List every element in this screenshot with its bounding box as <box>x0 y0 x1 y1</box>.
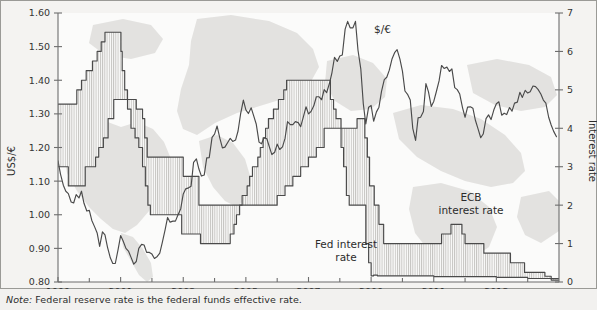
y-axis-right-tick-label: 3 <box>567 161 573 172</box>
figure-frame: 0.800.901.001.101.201.301.401.501.60 012… <box>0 0 597 289</box>
y-axis-right-tick-label: 1 <box>567 238 573 249</box>
note-label: Note: <box>6 294 32 305</box>
y-axis-left-tick-label: 1.20 <box>29 142 50 153</box>
y-axis-right-tick-label: 7 <box>567 7 573 18</box>
y-axis-left-tick-label: 1.10 <box>29 176 50 187</box>
y-axis-left-tick-label: 1.60 <box>29 7 50 18</box>
y-axis-right-tick-label: 0 <box>567 276 573 287</box>
y-axis-left-tick-label: 1.50 <box>29 41 50 52</box>
y-axis-left-title: US$/€ <box>6 146 17 176</box>
y-axis-right-tick-label: 6 <box>567 46 573 57</box>
y-axis-right-tick-label: 5 <box>567 84 573 95</box>
annotation-fed-rate-line1: Fed interest <box>315 238 377 250</box>
chart-canvas: 0.800.901.001.101.201.301.401.501.60 012… <box>1 1 597 290</box>
y-axis-left-ticks: 0.800.901.001.101.201.301.401.501.60 <box>29 7 62 287</box>
y-axis-left-tick-label: 1.00 <box>29 209 50 220</box>
figure-note: Note: Federal reserve rate is the federa… <box>6 294 302 305</box>
annotation-ecb-rate-line1: ECB <box>460 191 481 203</box>
y-axis-left-tick-label: 1.40 <box>29 75 50 86</box>
annotation-fed-rate-line2: rate <box>335 251 356 263</box>
y-axis-right-tick-label: 4 <box>567 123 573 134</box>
annotation-exchange-rate: $/€ <box>374 23 391 35</box>
y-axis-right-title: Interest rate <box>587 120 597 182</box>
chart-figure: 0.800.901.001.101.201.301.401.501.60 012… <box>0 0 597 310</box>
y-axis-left-tick-label: 0.90 <box>29 243 50 254</box>
y-axis-left-tick-label: 1.30 <box>29 108 50 119</box>
note-body: Federal reserve rate is the federal fund… <box>32 294 302 305</box>
annotation-ecb-rate-line2: interest rate <box>439 204 504 216</box>
y-axis-right-tick-label: 2 <box>567 200 573 211</box>
